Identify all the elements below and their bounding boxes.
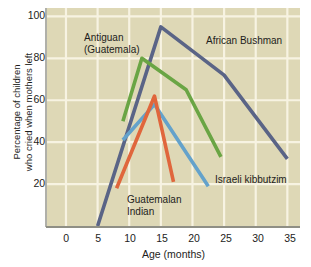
series-label-guatemalan-indian-line1: Guatemalan	[127, 194, 181, 205]
series-label-guatemalan-indian: Guatemalan Indian	[127, 194, 181, 218]
series-label-israeli-kibbutzim: Israeli kibbutzim	[215, 174, 287, 186]
y-axis-label-line1: Percentage of children	[11, 64, 22, 159]
crying-children-line-chart: 100 80 60 40 20 0 5 10 15 20 25 30 35 Ag…	[0, 0, 311, 267]
x-tick-10: 10	[117, 232, 143, 244]
x-tick-20: 20	[181, 232, 207, 244]
series-label-israeli-kibbutzim-line1: Israeli kibbutzim	[215, 174, 287, 185]
x-tick-25: 25	[213, 232, 239, 244]
x-tick-0: 0	[53, 232, 79, 244]
y-tick-100: 100	[21, 9, 45, 21]
series-label-antiguan-line1: Antiguan	[84, 32, 123, 43]
series-label-african-bushman: African Bushman	[206, 35, 282, 47]
series-label-african-bushman-line1: African Bushman	[206, 35, 282, 46]
series-label-guatemalan-indian-line2: Indian	[127, 206, 154, 217]
x-tick-5: 5	[85, 232, 111, 244]
x-tick-35: 35	[277, 232, 303, 244]
x-tick-15: 15	[149, 232, 175, 244]
x-axis-label: Age (months)	[47, 248, 300, 260]
y-axis-label: Percentage of children who cried when mo…	[11, 27, 35, 197]
y-axis-label-line2: who cried when mothers left	[23, 53, 34, 171]
series-label-antiguan-line2: (Guatemala)	[84, 44, 140, 55]
x-tick-30: 30	[245, 232, 271, 244]
series-label-antiguan: Antiguan (Guatemala)	[84, 32, 140, 56]
